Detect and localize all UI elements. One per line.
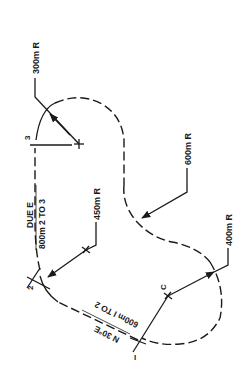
label-400m: 400m R — [224, 213, 234, 246]
arrow-450 — [48, 250, 86, 277]
leader-600 — [142, 168, 187, 218]
bearing-2-to-3: DUE E — [25, 202, 35, 228]
label-600m: 600m R — [183, 132, 193, 165]
arrow-400 — [168, 272, 214, 296]
point-2-label: 2 — [26, 285, 35, 290]
track-alignment — [35, 98, 222, 345]
leader-300 — [35, 78, 79, 144]
label-450m: 450m R — [92, 187, 102, 220]
arrow-300 — [50, 114, 70, 135]
leader-450 — [86, 222, 96, 250]
point-1-label: I — [134, 353, 136, 362]
point-3-label: 3 — [23, 135, 32, 140]
point-C-label: C — [159, 284, 168, 290]
label-300m: 300m R — [31, 41, 41, 74]
curve-600 — [124, 185, 210, 262]
curve-300-dashed — [55, 98, 124, 185]
leader-400 — [214, 248, 228, 272]
alignment-diagram: 3 300m R 600m R 450m R 2 DUE E 800m 2 TO… — [0, 0, 247, 376]
length-2-to-3: 800m 2 TO 3 — [37, 199, 47, 249]
